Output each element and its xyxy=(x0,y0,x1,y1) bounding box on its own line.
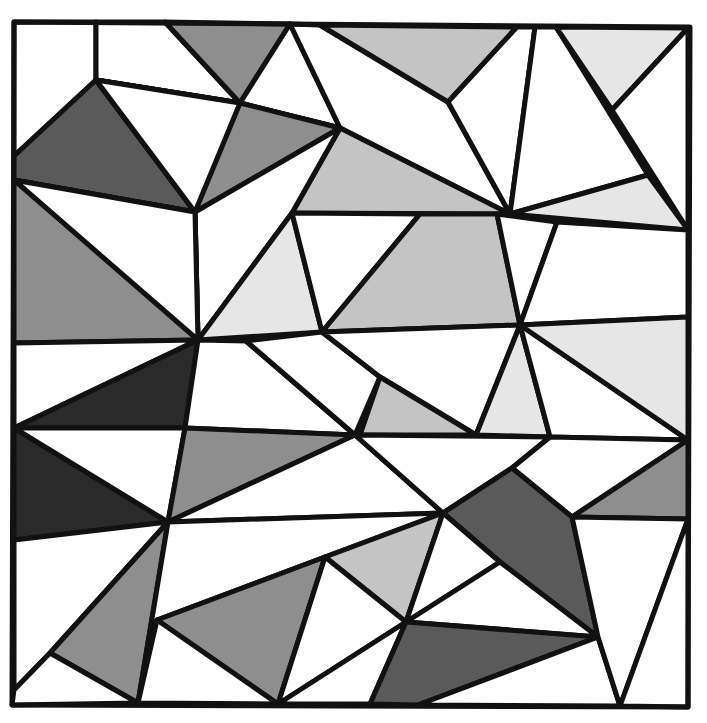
polygon-group xyxy=(12,22,688,707)
geometric-mosaic-artwork xyxy=(0,0,707,723)
